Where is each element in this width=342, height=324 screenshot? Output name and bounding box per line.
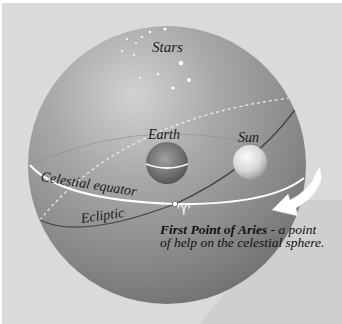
star-icon <box>171 86 174 89</box>
sun-label: Sun <box>238 131 259 145</box>
star-icon <box>121 50 123 52</box>
star-icon <box>126 38 128 40</box>
star-icon <box>179 61 183 65</box>
star-icon <box>133 54 135 56</box>
star-icon <box>187 78 191 82</box>
stars-label: Stars <box>152 40 183 55</box>
star-icon <box>157 73 159 75</box>
star-icon <box>139 77 141 79</box>
star-icon <box>141 36 143 38</box>
star-icon <box>149 31 151 33</box>
caption-line-2: of help on the celestial sphere. <box>160 236 324 249</box>
sun-sphere <box>233 145 267 179</box>
aries-symbol-icon: ♈ <box>177 203 190 218</box>
earth-globe <box>146 142 188 184</box>
star-icon <box>163 27 166 30</box>
first-point-of-aries-caption: First Point of Aries - a point of help o… <box>160 223 324 249</box>
earth-label: Earth <box>148 128 180 142</box>
star-icon <box>135 42 137 44</box>
